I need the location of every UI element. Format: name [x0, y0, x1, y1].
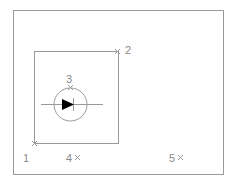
point-label-3: 3	[66, 73, 72, 85]
point-label-5: 5	[169, 152, 175, 164]
point-label-4: 4	[66, 152, 72, 164]
inner-rectangle	[35, 52, 119, 144]
point-label-2: 2	[125, 44, 131, 56]
marker-4	[75, 155, 80, 160]
arrow-icon	[62, 99, 74, 110]
marker-5	[178, 155, 183, 160]
cad-drawing: 1 2 3 4 5	[0, 0, 236, 179]
pump-symbol	[41, 88, 103, 121]
point-label-1: 1	[23, 152, 29, 164]
marker-3	[68, 85, 73, 90]
